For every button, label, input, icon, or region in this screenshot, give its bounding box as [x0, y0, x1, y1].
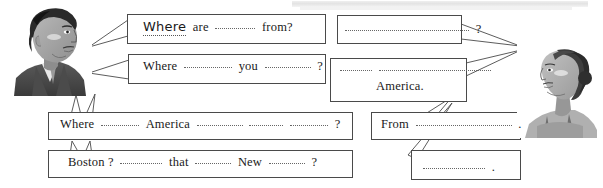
speech-bubble-right-3[interactable]	[371, 112, 521, 140]
speech-bubble-left-2[interactable]	[128, 54, 326, 84]
speech-bubble-left-4[interactable]	[48, 150, 353, 178]
speech-bubble-right-2[interactable]	[330, 58, 467, 102]
avatar-man	[8, 4, 92, 96]
speech-bubble-right-1[interactable]	[337, 15, 462, 44]
speech-bubble-right-4[interactable]	[411, 150, 521, 180]
speech-bubble-left-1[interactable]	[127, 14, 326, 44]
exercise-scene: Where are from?Where you ?Where America …	[0, 0, 603, 188]
speech-bubble-left-3[interactable]	[48, 112, 353, 140]
avatar-woman	[517, 42, 601, 138]
